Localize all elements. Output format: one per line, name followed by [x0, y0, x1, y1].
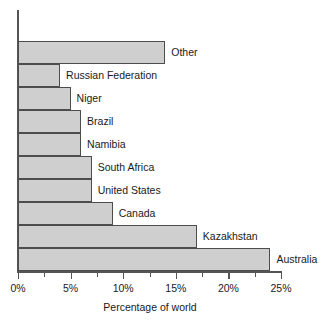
x-axis-tick-label: 20% — [218, 282, 239, 294]
bar — [18, 202, 113, 225]
bar — [18, 64, 60, 87]
bar-category-label: South Africa — [98, 156, 155, 179]
bar-category-label: United States — [98, 179, 161, 202]
bar-category-label: Australia — [276, 248, 317, 271]
bar — [18, 156, 92, 179]
x-axis-minor-tick — [97, 272, 98, 277]
x-axis-major-tick — [123, 272, 124, 279]
bar-category-label: Namibia — [87, 133, 126, 156]
bar — [18, 87, 71, 110]
x-axis-major-tick — [176, 272, 177, 279]
bar — [18, 110, 81, 133]
bar-category-label: Canada — [119, 202, 156, 225]
x-axis-title-text: Percentage of world — [103, 301, 196, 313]
plot-area: OtherRussian FederationNigerBrazilNamibi… — [0, 0, 334, 330]
x-axis-tick-label: 10% — [113, 282, 134, 294]
bar — [18, 41, 165, 64]
x-axis-tick-label: 15% — [165, 282, 186, 294]
bar-category-label: Brazil — [87, 110, 113, 133]
bar-category-label: Kazakhstan — [203, 225, 258, 248]
x-axis-title: Percentage of world — [0, 301, 334, 313]
x-axis-tick-label: 0% — [10, 282, 25, 294]
bar-category-label: Russian Federation — [66, 64, 157, 87]
x-axis-minor-tick — [255, 272, 256, 277]
bar — [18, 225, 197, 248]
x-axis-minor-tick — [150, 272, 151, 277]
bar — [18, 248, 270, 271]
x-axis-tick-label: 25% — [270, 282, 291, 294]
x-axis-tick-label: 5% — [63, 282, 78, 294]
x-axis-minor-tick — [202, 272, 203, 277]
bar — [18, 133, 81, 156]
x-axis-major-tick — [71, 272, 72, 279]
bar-category-label: Niger — [77, 87, 102, 110]
x-axis-minor-tick — [44, 272, 45, 277]
x-axis-major-tick — [281, 272, 282, 279]
x-axis-major-tick — [18, 272, 19, 279]
bar — [18, 179, 92, 202]
bar-category-label: Other — [171, 41, 197, 64]
bar-chart: OtherRussian FederationNigerBrazilNamibi… — [0, 0, 334, 330]
x-axis-major-tick — [228, 272, 229, 279]
